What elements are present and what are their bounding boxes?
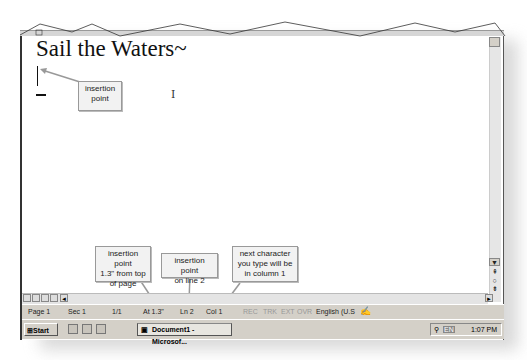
status-rec[interactable]: REC [243,308,258,315]
callout-line: you type will be [236,259,294,269]
status-language[interactable]: English (U.S [316,308,355,315]
callout-line: on line 2 [165,276,214,286]
scroll-left-button[interactable]: ◄ [60,294,68,302]
callout-line: insertion point [99,249,147,269]
start-label: Start [33,327,49,334]
language-bar-icon[interactable]: ⚲ [434,326,439,334]
next-page-button[interactable]: ⇟ [489,285,500,293]
status-column: Col 1 [206,308,222,315]
outlook-express-icon[interactable] [96,324,106,334]
callout-line: insertion [82,84,118,94]
status-bar: Page 1 Sec 1 1/1 At 1.3" Ln 2 Col 1 REC … [22,304,504,319]
language-indicator[interactable]: EN [443,326,455,333]
spelling-grammar-status-icon[interactable]: ✍ [360,306,371,316]
status-line: Ln 2 [180,308,194,315]
word-document-icon: ▣ [141,324,148,336]
status-page: Page 1 [28,308,50,315]
status-page-of: 1/1 [112,308,122,315]
outline-view-button[interactable] [50,294,58,302]
status-ovr[interactable]: OVR [297,308,312,315]
scroll-right-button[interactable]: ► [485,294,493,302]
status-ext[interactable]: EXT [281,308,295,315]
system-tray: ⚲ EN 1:07 PM [430,323,502,336]
status-section: Sec 1 [68,308,86,315]
status-trk[interactable]: TRK [263,308,277,315]
taskbar: ⊞Start ▣ Document1 - Microsof... ⚲ EN 1:… [22,319,504,339]
callout-line: 1.3" from top [99,269,147,279]
callout-line: next character [236,249,294,259]
web-layout-view-button[interactable] [32,294,40,302]
split-box[interactable] [489,37,500,47]
normal-view-button[interactable] [23,294,31,302]
start-button[interactable]: ⊞Start [24,323,58,336]
scroll-down-button[interactable]: ▼ [489,258,500,266]
task-button-document1[interactable]: ▣ Document1 - Microsof... [137,323,232,336]
print-layout-view-button[interactable] [41,294,49,302]
horizontal-scrollbar[interactable] [22,293,488,304]
callout-insertion-point: insertion point [78,81,122,111]
callout-line: in column 1 [236,269,294,279]
callout-line-number: insertion point on line 2 [161,253,218,278]
show-desktop-icon[interactable] [68,324,78,334]
status-at: At 1.3" [143,308,164,315]
callout-line: insertion point [165,256,214,276]
callout-line: point [82,94,118,104]
previous-page-button[interactable]: ⇞ [489,268,500,276]
clock[interactable]: 1:07 PM [471,326,497,333]
callout-at-position: insertion point 1.3" from top of page [95,246,151,282]
callout-line: of page [99,279,147,289]
callout-column-number: next character you type will be in colum… [232,246,298,282]
select-browse-object-button[interactable]: ○ [489,277,500,285]
internet-explorer-icon[interactable] [82,324,92,334]
